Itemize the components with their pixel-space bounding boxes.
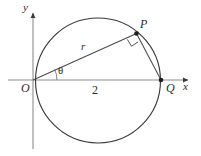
figure-container: y x O Q P r θ 2 xyxy=(0,0,201,156)
y-axis-label: y xyxy=(23,2,28,13)
angle-label-theta: θ xyxy=(58,65,63,76)
angle-arc-theta xyxy=(55,69,57,80)
geometry-diagram xyxy=(0,0,201,156)
right-angle-marker xyxy=(127,39,138,46)
segment-label-radius: r xyxy=(81,41,85,52)
diameter-label: 2 xyxy=(92,84,98,96)
point-label-p: P xyxy=(140,18,147,30)
segment-PQ-chord xyxy=(137,34,162,81)
point-marker-Q xyxy=(159,78,164,83)
point-label-origin: O xyxy=(21,82,30,94)
x-axis-label: x xyxy=(183,81,188,92)
point-label-q: Q xyxy=(166,82,175,94)
point-marker-P xyxy=(134,31,139,36)
